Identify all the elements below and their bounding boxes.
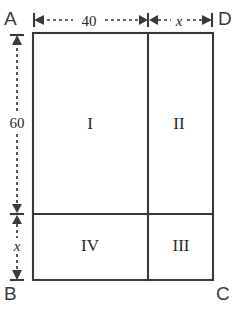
- region-label-i: I: [87, 114, 93, 133]
- arrow-left-icon-mid: [149, 15, 158, 25]
- left-dim-label-x: x: [13, 238, 21, 254]
- arrow-down-icon-mid: [12, 204, 22, 213]
- corner-label-c: C: [216, 283, 230, 304]
- corner-label-b: B: [4, 283, 17, 304]
- arrow-up-icon-mid: [12, 215, 22, 224]
- region-label-ii: II: [173, 114, 185, 133]
- arrow-down-icon: [12, 270, 22, 280]
- arrow-left-icon: [34, 15, 44, 25]
- top-dim-label-x: x: [175, 13, 183, 29]
- arrow-right-icon-mid: [139, 15, 148, 25]
- region-label-iii: III: [173, 236, 190, 255]
- geometry-figure: A D B C I II III IV 40 x 60: [0, 0, 244, 315]
- arrow-right-icon: [202, 15, 212, 25]
- top-dim-label-40: 40: [82, 13, 97, 29]
- region-label-iv: IV: [81, 236, 100, 255]
- corner-label-d: D: [218, 8, 232, 29]
- figure-canvas: A D B C I II III IV 40 x 60: [0, 0, 244, 315]
- arrow-up-icon: [12, 35, 22, 45]
- corner-label-a: A: [4, 8, 17, 29]
- left-dim-label-60: 60: [10, 115, 25, 131]
